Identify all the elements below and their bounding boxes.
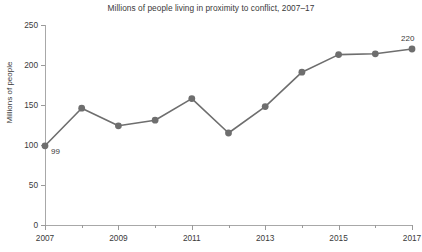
data-point-marker: [188, 95, 195, 102]
data-point-marker: [262, 103, 269, 110]
data-point-label: 220: [401, 35, 414, 43]
data-point-marker: [335, 51, 342, 58]
data-point-marker: [372, 50, 379, 57]
data-point-marker: [152, 117, 159, 124]
data-point-marker: [115, 122, 122, 129]
line-chart: Millions of people living in proximity t…: [0, 0, 422, 252]
data-point-marker: [42, 142, 49, 149]
data-point-marker: [299, 69, 306, 76]
data-point-marker: [409, 46, 416, 53]
data-point-label: 99: [51, 148, 60, 156]
data-markers: [42, 46, 416, 150]
plot-area: [0, 0, 422, 252]
data-point-marker: [225, 130, 232, 137]
data-point-marker: [78, 105, 85, 112]
